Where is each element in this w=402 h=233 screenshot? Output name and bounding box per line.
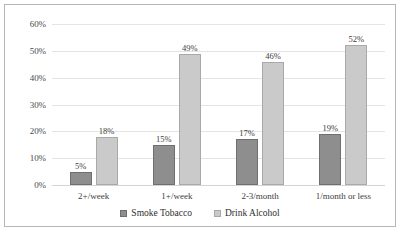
bar-value-label: 46%	[265, 51, 281, 61]
chart-legend: Smoke TobaccoDrink Alcohol	[5, 208, 395, 218]
bar-group: 15%49%1+/week	[135, 24, 218, 185]
bar-group: 5%18%2+/week	[52, 24, 135, 185]
plot-area: 0%10%20%30%40%50%60% 5%18%2+/week15%49%1…	[52, 24, 385, 185]
legend-label: Smoke Tobacco	[131, 208, 192, 218]
chart-frame: 0%10%20%30%40%50%60% 5%18%2+/week15%49%1…	[4, 4, 396, 227]
bar-smoke-tobacco[interactable]: 17%	[236, 139, 258, 185]
bar-value-label: 17%	[239, 128, 255, 138]
gridline	[52, 185, 385, 186]
bar-value-label: 5%	[75, 161, 86, 171]
bar-value-label: 19%	[323, 123, 339, 133]
y-axis-tick-label: 0%	[34, 180, 46, 190]
bar-drink-alcohol[interactable]: 49%	[179, 54, 201, 185]
y-axis-tick-label: 20%	[30, 126, 46, 136]
bar-value-label: 52%	[349, 34, 365, 44]
bar-smoke-tobacco[interactable]: 19%	[319, 134, 341, 185]
y-axis-tick-label: 60%	[30, 19, 46, 29]
y-axis-tick-label: 30%	[30, 100, 46, 110]
legend-label: Drink Alcohol	[225, 208, 280, 218]
bar-drink-alcohol[interactable]: 18%	[96, 137, 118, 185]
bar-drink-alcohol[interactable]: 52%	[345, 45, 367, 185]
bar-group: 17%46%2-3/month	[219, 24, 302, 185]
bar-value-label: 18%	[99, 126, 115, 136]
x-axis-category-label: 2+/week	[78, 191, 109, 201]
x-axis-category-label: 1+/week	[161, 191, 192, 201]
legend-item-drink-alcohol[interactable]: Drink Alcohol	[214, 208, 280, 218]
y-axis-tick-label: 40%	[30, 73, 46, 83]
bar-value-label: 49%	[182, 43, 198, 53]
x-axis-category-label: 1/month or less	[316, 191, 372, 201]
y-axis-tick-label: 10%	[30, 153, 46, 163]
legend-swatch-icon	[120, 210, 127, 217]
bar-smoke-tobacco[interactable]: 15%	[153, 145, 175, 185]
bar-drink-alcohol[interactable]: 46%	[262, 62, 284, 185]
legend-item-smoke-tobacco[interactable]: Smoke Tobacco	[120, 208, 192, 218]
bar-value-label: 15%	[156, 134, 172, 144]
bar-smoke-tobacco[interactable]: 5%	[70, 172, 92, 185]
legend-swatch-icon	[214, 210, 221, 217]
y-axis-tick-label: 50%	[30, 46, 46, 56]
x-axis-category-label: 2-3/month	[241, 191, 279, 201]
bar-group: 19%52%1/month or less	[302, 24, 385, 185]
